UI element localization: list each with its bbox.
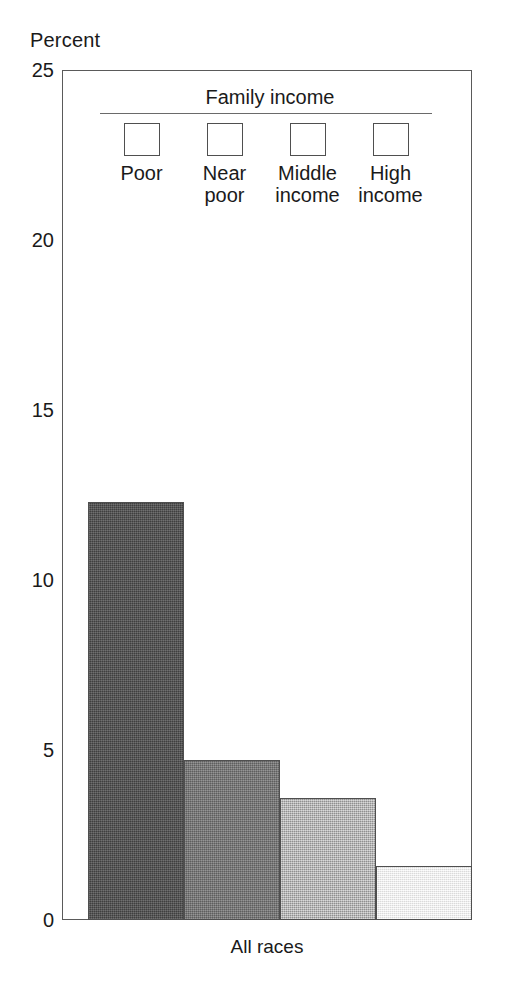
- y-axis-tick-labels: 0510152025: [0, 0, 54, 982]
- bar-near-poor: [184, 760, 280, 920]
- legend-item-label: Poor: [120, 162, 162, 184]
- y-axis-tick-25: 25: [8, 60, 54, 80]
- y-axis-tick-15: 15: [8, 400, 54, 420]
- bar-middle-income: [280, 798, 376, 920]
- legend-divider: [100, 113, 432, 114]
- legend-item-near-poor: Near poor: [183, 123, 266, 206]
- legend-swatch-icon: [290, 123, 326, 156]
- y-axis-tick-5: 5: [8, 740, 54, 760]
- legend-swatch-icon: [207, 123, 243, 156]
- legend-item-poor: Poor: [100, 123, 183, 206]
- legend-swatch-icon: [124, 123, 160, 156]
- y-axis-tick-20: 20: [8, 230, 54, 250]
- bar-chart: Percent 0510152025 Family income PoorNea…: [0, 0, 509, 982]
- x-axis-category-label: All races: [62, 936, 472, 958]
- legend-item-label: Near poor: [203, 162, 246, 206]
- y-axis-tick-0: 0: [8, 910, 54, 930]
- legend-swatch-icon: [373, 123, 409, 156]
- bar-high-income: [376, 866, 472, 920]
- legend-title: Family income: [100, 86, 440, 108]
- y-axis-tick-10: 10: [8, 570, 54, 590]
- bar-poor: [88, 502, 184, 920]
- legend-item-high-income: High income: [349, 123, 432, 206]
- legend: Family income PoorNear poorMiddle income…: [100, 86, 440, 206]
- legend-item-middle-income: Middle income: [266, 123, 349, 206]
- legend-items: PoorNear poorMiddle incomeHigh income: [100, 123, 432, 206]
- legend-item-label: Middle income: [275, 162, 339, 206]
- legend-item-label: High income: [358, 162, 422, 206]
